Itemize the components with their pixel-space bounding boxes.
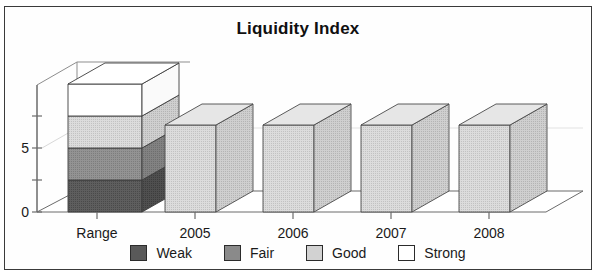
legend-item-strong[interactable]: Strong (398, 245, 465, 261)
x-category-label-2006: 2006 (258, 225, 328, 241)
x-category-label-range: Range (62, 225, 132, 241)
legend-label-good: Good (332, 245, 366, 261)
legend-swatch-strong (398, 245, 415, 261)
bar-range-stacked[interactable] (68, 63, 179, 212)
x-axis-ticks (97, 212, 489, 219)
legend-label-fair: Fair (250, 245, 274, 261)
bar-2006[interactable] (263, 104, 351, 212)
legend-swatch-weak (130, 245, 147, 261)
legend-item-fair[interactable]: Fair (224, 245, 274, 261)
y-tick-label-5: 5 (7, 140, 29, 156)
x-category-label-2007: 2007 (356, 225, 426, 241)
chart-legend: Weak Fair Good Strong (5, 245, 591, 261)
x-category-label-2008: 2008 (454, 225, 524, 241)
legend-item-weak[interactable]: Weak (130, 245, 192, 261)
x-category-label-2005: 2005 (160, 225, 230, 241)
legend-swatch-fair (224, 245, 241, 261)
bar-2008[interactable] (459, 104, 547, 212)
legend-item-good[interactable]: Good (306, 245, 366, 261)
bar-2007[interactable] (361, 104, 449, 212)
legend-swatch-good (306, 245, 323, 261)
plot-area: 5 0 Range 2005 2006 2007 2008 (5, 7, 593, 271)
bar-2005[interactable] (165, 104, 253, 212)
legend-label-weak: Weak (156, 245, 192, 261)
chart-frame: Liquidity Index (4, 6, 592, 270)
y-tick-label-0: 0 (7, 204, 29, 220)
legend-label-strong: Strong (424, 245, 465, 261)
